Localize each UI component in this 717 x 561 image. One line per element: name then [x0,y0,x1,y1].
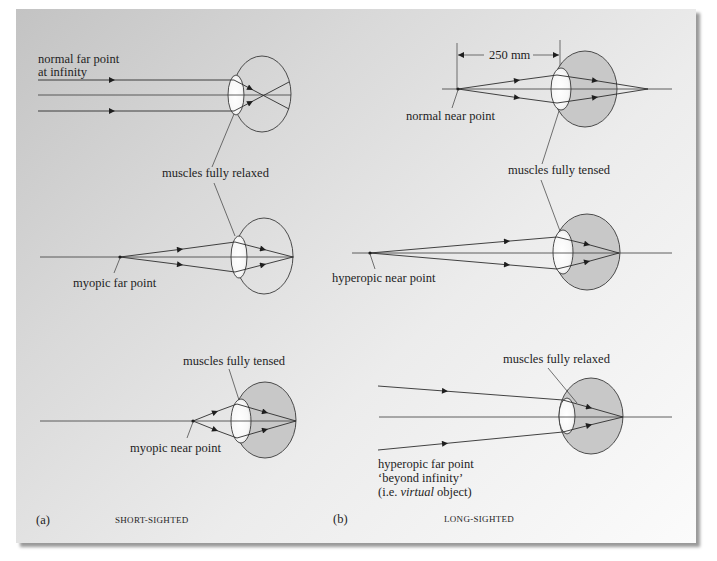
pointer-line [541,180,560,231]
pointer-line [212,114,234,167]
pointer-line [370,254,375,269]
panel-a-caption: SHORT-SIGHTED [115,515,189,525]
normal-near-point-label: normal near point [406,109,495,123]
panel-b-hyperopic-far-point-diagram: muscles fully relaxed hyperopic far poin… [378,352,672,499]
panel-captions: (a) SHORT-SIGHTED (b) LONG-SIGHTED [36,512,514,527]
myopic-near-point-label: myopic near point [130,441,221,455]
muscles-fully-relaxed-label-a: muscles fully relaxed [162,166,270,180]
pointer-line [542,111,559,164]
pointer-line [187,422,193,438]
muscles-fully-relaxed-label-b: muscles fully relaxed [503,352,611,366]
panel-a-normal-far-point-diagram: normal far point at infinity [38,52,291,167]
pointer-line [114,258,120,273]
pointer-line [214,183,235,236]
myopic-far-point-label: myopic far point [73,276,157,290]
light-rays [38,80,289,111]
pointer-line [229,369,239,400]
panel-a-myopic-near-point-diagram: muscles fully tensed myopic near point [40,354,296,458]
pointer-line [452,90,458,108]
panel-b-caption: LONG-SIGHTED [444,514,514,524]
panel-b-label: (b) [333,512,348,526]
panel-b-normal-near-point-diagram: 250 mm normal near point [406,40,672,164]
at-infinity-label: at infinity [38,65,88,79]
eye-lens-relaxed [559,398,575,434]
panel-a-myopic-far-point-diagram: myopic far point [40,183,294,294]
hyperopic-near-point-label: hyperopic near point [332,271,436,285]
dimension-label: 250 mm [489,48,531,62]
normal-far-point-label: normal far point [38,52,120,66]
muscles-fully-tensed-label-b: muscles fully tensed [508,163,611,177]
virtual-object-label: (i.e. virtual object) [378,485,472,499]
beyond-infinity-label: ‘beyond infinity’ [378,471,463,485]
hyperopic-far-point-label: hyperopic far point [378,457,474,471]
panel-b-hyperopic-near-point-diagram: hyperopic near point [332,180,672,290]
muscles-fully-tensed-label-a: muscles fully tensed [183,354,286,368]
panel-a-label: (a) [36,513,50,527]
eye-optics-diagram: normal far point at infinity muscles ful… [0,0,717,561]
